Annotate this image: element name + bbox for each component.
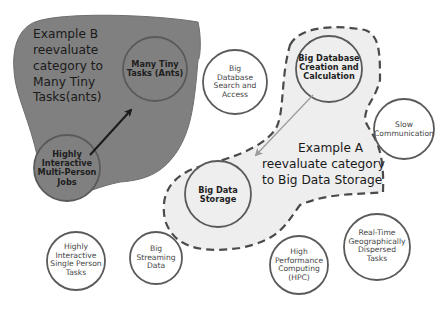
- example-a-note-line: reevaluate category: [262, 157, 385, 173]
- node-label-line: Tasks (Ants): [127, 69, 184, 78]
- node-label-line: Jobs: [38, 177, 97, 186]
- example-b-note-line: reevaluate: [33, 43, 103, 59]
- node-big-data-storage: Big Data Storage: [198, 186, 238, 204]
- node-highly-interactive-single-person: Highly Interactive Single Person Tasks: [50, 243, 101, 277]
- example-b-note-line: Example B: [33, 27, 103, 43]
- example-b-note-line: category to: [33, 59, 103, 75]
- node-label-line: Tasks: [348, 255, 405, 264]
- node-big-database-creation: Big Database Creation and Calculation: [298, 54, 359, 82]
- node-slow-communication: Slow Communication: [374, 121, 434, 138]
- node-big-database-search: Big Database Search and Access: [214, 65, 257, 99]
- example-a-note-line: to Big Data Storage: [262, 173, 385, 189]
- node-label-line: (HPC): [275, 274, 323, 283]
- example-b-note: Example B reevaluate category to Many Ti…: [33, 27, 103, 106]
- example-b-note-line: Many Tiny: [33, 75, 103, 91]
- node-big-streaming-data: Big Streaming Data: [136, 245, 175, 271]
- node-many-tiny-tasks: Many Tiny Tasks (Ants): [127, 60, 184, 78]
- node-label-line: Calculation: [298, 73, 359, 82]
- node-hpc: High Performance Computing (HPC): [275, 248, 323, 282]
- node-real-time-geo: Real-Time Geographically Dispersed Tasks: [348, 229, 405, 263]
- example-a-note: Example A reevaluate category to Big Dat…: [262, 141, 385, 189]
- node-label-line: Access: [214, 91, 257, 100]
- example-b-note-line: Tasks(ants): [33, 90, 103, 106]
- example-a-note-line: Example A: [262, 141, 385, 157]
- node-label-line: Data: [136, 262, 175, 271]
- node-label-line: Tasks: [50, 269, 101, 278]
- node-label-line: Communication: [374, 129, 434, 138]
- node-highly-interactive-multi-person-jobs: Highly Interactive Multi-Person Jobs: [38, 150, 97, 187]
- node-label-line: Storage: [198, 195, 238, 204]
